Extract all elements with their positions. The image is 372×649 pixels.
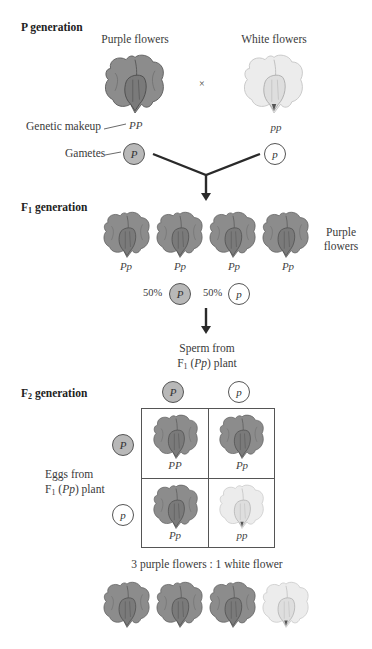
cell-genotype: PP xyxy=(168,459,181,471)
ratio-text: 3 purple flowers : 1 white flower xyxy=(131,558,282,570)
egg-allele-dominant: P xyxy=(112,434,134,456)
purple-flower-icon xyxy=(101,580,153,628)
purple-flower-icon xyxy=(217,413,267,459)
purple-flower-icon xyxy=(151,483,201,529)
f2-generation-heading: F2 generation xyxy=(21,387,87,401)
punnett-cell-Pp: Pp xyxy=(142,479,208,548)
cross-arrow-icon xyxy=(0,0,372,649)
cell-genotype: pp xyxy=(237,529,248,541)
f1-flower-icon xyxy=(154,210,206,258)
white-flower-icon xyxy=(260,580,312,628)
punnett-cell-PP: PP xyxy=(142,409,208,478)
f1-gamete-dominant: P xyxy=(169,283,191,305)
egg-allele-recessive: p xyxy=(112,504,134,526)
sperm-label: Sperm from F1 (Pp) plant xyxy=(177,341,237,374)
f1-flower-icon xyxy=(207,210,259,258)
f1-genotype: Pp xyxy=(228,260,240,272)
f1-gamete-percent: 50% xyxy=(143,287,162,298)
f1-genotype: Pp xyxy=(120,260,132,272)
f1-gamete-recessive: p xyxy=(228,283,250,305)
cell-genotype: Pp xyxy=(169,529,181,541)
f1-phenotype-label: Purpleflowers xyxy=(324,225,359,253)
f1-genotype: Pp xyxy=(174,260,186,272)
purple-flower-icon xyxy=(154,580,206,628)
f1-generation-heading: F1 generation xyxy=(21,201,87,215)
purple-flower-icon xyxy=(151,413,201,459)
sperm-allele-recessive: p xyxy=(228,381,250,403)
f1-flower-icon xyxy=(260,210,312,258)
f1-gamete-percent: 50% xyxy=(203,287,222,298)
punnett-cell-Pp: Pp xyxy=(209,409,275,478)
punnett-square: PP Pp Pp pp xyxy=(141,408,275,548)
cell-genotype: Pp xyxy=(236,459,248,471)
punnett-cell-pp: pp xyxy=(209,479,275,548)
eggs-label: Eggs from F1 (Pp) plant xyxy=(45,467,105,500)
sperm-allele-dominant: P xyxy=(162,381,184,403)
purple-flower-icon xyxy=(207,580,259,628)
f1-flower-icon xyxy=(101,210,153,258)
white-flower-icon xyxy=(217,483,267,529)
f1-genotype: Pp xyxy=(282,260,294,272)
